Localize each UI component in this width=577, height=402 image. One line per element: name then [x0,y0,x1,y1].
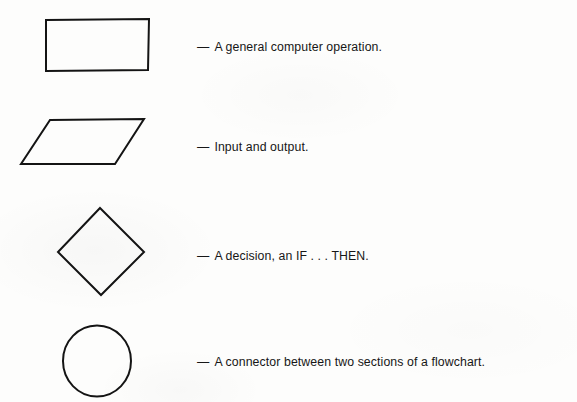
diamond-icon [55,205,149,299]
rectangle-symbol [44,17,152,73]
em-dash-1: — [197,40,209,54]
legend-description-2-text: Input and output. [214,140,308,154]
parallelogram-symbol [18,116,148,170]
legend-description-4: —A connector between two sections of a f… [197,355,485,369]
legend-description-1: —A general computer operation. [197,40,382,54]
legend-description-3: —A decision, an IF . . . THEN. [197,249,369,263]
legend-description-3-text: A decision, an IF . . . THEN. [214,249,368,263]
legend-description-2: —Input and output. [197,140,308,154]
scanned-page: —A general computer operation. —Input an… [0,0,577,402]
em-dash-4: — [197,355,209,369]
legend-description-1-text: A general computer operation. [214,40,382,54]
parallelogram-icon [18,116,148,170]
em-dash-3: — [197,249,209,263]
circle-icon [60,322,136,402]
legend-description-4-text: A connector between two sections of a fl… [214,355,485,369]
circle-symbol [60,322,136,402]
diamond-symbol [55,205,149,299]
rectangle-icon [44,17,152,73]
em-dash-2: — [197,140,209,154]
